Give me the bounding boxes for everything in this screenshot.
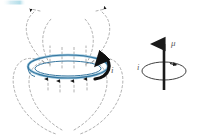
current-loop-outer-line [28, 55, 108, 78]
figure-canvas: i μ i [0, 0, 198, 140]
magnetic-moment-diagram: μ i [137, 38, 186, 90]
top-field-arrow-right [96, 9, 105, 11]
scan-edge-strip [2, 1, 26, 5]
lower-field-arrow-group [48, 79, 87, 92]
field-line-outer-right-upper [92, 12, 110, 62]
axis-dash-group [50, 46, 86, 68]
moment-label-mu: μ [170, 38, 176, 48]
current-circle-arrowhead [170, 64, 176, 65]
field-line-outer-left [13, 58, 56, 134]
field-line-outer-left-upper [26, 12, 44, 62]
physics-figure: i μ i [0, 0, 198, 140]
top-field-arrow-group [31, 9, 105, 11]
field-line-outer-right [80, 58, 123, 134]
current-label-loop: i [111, 65, 114, 75]
current-loop [28, 55, 108, 78]
top-field-arrow-left [31, 9, 40, 11]
current-loop-inner-line [35, 61, 101, 76]
current-label-moment: i [137, 62, 140, 72]
